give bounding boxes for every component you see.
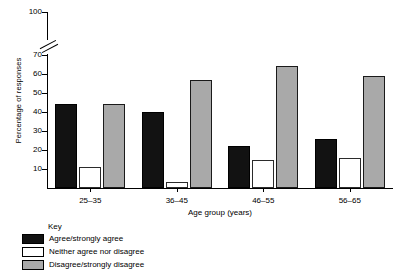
legend-label-disagree: Disagree/strongly disagree bbox=[49, 260, 144, 269]
legend-item-disagree: Disagree/strongly disagree bbox=[22, 258, 144, 271]
bar-neither-0 bbox=[79, 167, 101, 188]
bar-disagree-3 bbox=[363, 76, 385, 188]
legend-title: Key bbox=[48, 222, 144, 231]
y-tick-label: 30 bbox=[14, 127, 42, 135]
legend: Key Agree/strongly agree Neither agree n… bbox=[22, 222, 144, 271]
x-axis-title: Age group (years) bbox=[47, 208, 393, 217]
bar-agree-0 bbox=[55, 104, 77, 188]
y-tick-label: 10 bbox=[14, 165, 42, 173]
x-tick-label: 25–35 bbox=[60, 196, 120, 205]
bar-disagree-2 bbox=[276, 66, 298, 188]
x-tick bbox=[263, 188, 264, 192]
bar-neither-3 bbox=[339, 158, 361, 188]
y-tick-label: 100 bbox=[14, 8, 42, 16]
y-tick-label: 60 bbox=[14, 70, 42, 78]
y-tick-label: 40 bbox=[14, 108, 42, 116]
legend-swatch-agree bbox=[22, 234, 44, 244]
legend-item-neither: Neither agree nor disagree bbox=[22, 245, 144, 258]
x-tick bbox=[90, 188, 91, 192]
bar-agree-1 bbox=[142, 112, 164, 188]
legend-swatch-disagree bbox=[22, 260, 44, 270]
y-tick-label: 70 bbox=[14, 51, 42, 59]
x-tick bbox=[350, 188, 351, 192]
y-tick-label: 20 bbox=[14, 146, 42, 154]
bar-agree-2 bbox=[228, 146, 250, 188]
bar-agree-3 bbox=[315, 139, 337, 188]
y-tick-label: 50 bbox=[14, 89, 42, 97]
x-tick-label: 36–45 bbox=[147, 196, 207, 205]
x-tick-label: 46–55 bbox=[233, 196, 293, 205]
bar-disagree-0 bbox=[103, 104, 125, 188]
x-tick-label: 56–65 bbox=[320, 196, 380, 205]
legend-swatch-neither bbox=[22, 247, 44, 257]
legend-label-neither: Neither agree nor disagree bbox=[49, 247, 144, 256]
bar-neither-2 bbox=[252, 160, 274, 189]
x-axis-line bbox=[47, 188, 393, 189]
bar-chart: Percentage of responses 1020304050607010… bbox=[0, 0, 403, 278]
bar-disagree-1 bbox=[190, 80, 212, 188]
plot-area bbox=[47, 12, 393, 188]
x-tick bbox=[177, 188, 178, 192]
legend-label-agree: Agree/strongly agree bbox=[49, 234, 123, 243]
legend-item-agree: Agree/strongly agree bbox=[22, 232, 144, 245]
